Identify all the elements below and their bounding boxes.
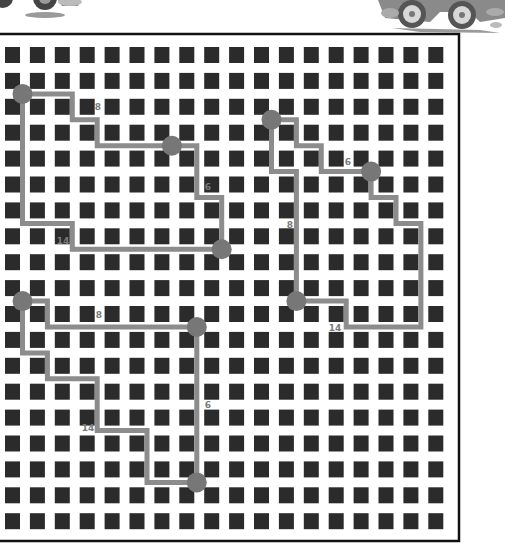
grid-square bbox=[379, 177, 394, 193]
grid-square bbox=[428, 202, 443, 218]
grid-square bbox=[229, 436, 244, 452]
grid-square bbox=[5, 332, 20, 348]
grid-square bbox=[30, 513, 45, 529]
grid-square bbox=[279, 487, 294, 503]
grid-square bbox=[304, 254, 319, 270]
grid-square bbox=[379, 151, 394, 167]
grid-square bbox=[304, 384, 319, 400]
grid-square bbox=[229, 47, 244, 63]
grid-square bbox=[403, 358, 418, 374]
grid-square bbox=[304, 151, 319, 167]
grid-square bbox=[354, 202, 369, 218]
grid-square bbox=[329, 254, 344, 270]
grid-square bbox=[105, 487, 120, 503]
grid-square bbox=[304, 358, 319, 374]
grid-square bbox=[229, 99, 244, 115]
route-node[interactable] bbox=[262, 110, 282, 130]
grid-square bbox=[229, 73, 244, 89]
grid-square bbox=[229, 228, 244, 244]
grid-square bbox=[329, 487, 344, 503]
route-node[interactable] bbox=[361, 162, 381, 182]
grid-square bbox=[30, 151, 45, 167]
grid-square bbox=[279, 410, 294, 426]
grid-square bbox=[329, 151, 344, 167]
grid-square bbox=[329, 358, 344, 374]
grid-square bbox=[204, 487, 219, 503]
grid-square bbox=[130, 228, 145, 244]
grid-square bbox=[279, 73, 294, 89]
grid-square bbox=[55, 436, 70, 452]
grid-square bbox=[154, 461, 169, 477]
grid-square bbox=[379, 384, 394, 400]
grid-square bbox=[254, 436, 269, 452]
route-node[interactable] bbox=[286, 291, 306, 311]
grid-square bbox=[254, 177, 269, 193]
grid-square bbox=[130, 47, 145, 63]
distance-label: 6 bbox=[345, 157, 351, 167]
route-node[interactable] bbox=[187, 472, 207, 492]
distance-label: 6 bbox=[205, 400, 211, 410]
grid-square bbox=[354, 513, 369, 529]
grid-square bbox=[428, 280, 443, 296]
grid-square bbox=[354, 461, 369, 477]
grid-square bbox=[279, 177, 294, 193]
grid-square bbox=[229, 125, 244, 141]
grid-square bbox=[130, 487, 145, 503]
route-node[interactable] bbox=[13, 84, 33, 104]
grid-square bbox=[179, 384, 194, 400]
grid-square bbox=[179, 202, 194, 218]
route-node[interactable] bbox=[162, 136, 182, 156]
grid-square bbox=[80, 47, 95, 63]
route-node[interactable] bbox=[187, 317, 207, 337]
grid-square bbox=[354, 280, 369, 296]
grid-square bbox=[279, 254, 294, 270]
distance-label: 8 bbox=[95, 102, 101, 112]
grid-square bbox=[279, 151, 294, 167]
grid-square bbox=[80, 306, 95, 322]
distance-label: 6 bbox=[205, 182, 211, 192]
grid-square bbox=[379, 436, 394, 452]
grid-square bbox=[105, 461, 120, 477]
grid-path-puzzle: 861468148614 bbox=[0, 0, 505, 544]
grid-square bbox=[304, 410, 319, 426]
route-node[interactable] bbox=[13, 291, 33, 311]
grid-square bbox=[254, 513, 269, 529]
route-node[interactable] bbox=[212, 239, 232, 259]
grid-square bbox=[154, 358, 169, 374]
grid-square bbox=[254, 47, 269, 63]
grid-square bbox=[403, 384, 418, 400]
grid-square bbox=[354, 358, 369, 374]
grid-square bbox=[403, 151, 418, 167]
grid-square bbox=[5, 461, 20, 477]
grid-square bbox=[130, 99, 145, 115]
grid-square bbox=[130, 410, 145, 426]
grid-square bbox=[329, 513, 344, 529]
grid-square bbox=[30, 436, 45, 452]
grid-square bbox=[428, 73, 443, 89]
grid-square bbox=[379, 228, 394, 244]
grid-square bbox=[179, 513, 194, 529]
grid-square bbox=[329, 228, 344, 244]
grid-square bbox=[304, 125, 319, 141]
grid-square bbox=[254, 461, 269, 477]
grid-square bbox=[5, 487, 20, 503]
grid-square bbox=[403, 73, 418, 89]
grid-square bbox=[379, 125, 394, 141]
grid-square bbox=[379, 461, 394, 477]
grid-square bbox=[30, 177, 45, 193]
grid-square bbox=[105, 280, 120, 296]
grid-square bbox=[30, 47, 45, 63]
grid-square bbox=[304, 47, 319, 63]
grid-square bbox=[304, 461, 319, 477]
grid-square bbox=[154, 384, 169, 400]
grid-square bbox=[154, 410, 169, 426]
grid-square bbox=[304, 177, 319, 193]
grid-square bbox=[5, 202, 20, 218]
grid-square bbox=[204, 410, 219, 426]
grid-square bbox=[229, 280, 244, 296]
grid-square bbox=[428, 461, 443, 477]
grid-square bbox=[279, 202, 294, 218]
grid-square bbox=[379, 99, 394, 115]
grid-square bbox=[354, 487, 369, 503]
grid-square bbox=[179, 99, 194, 115]
